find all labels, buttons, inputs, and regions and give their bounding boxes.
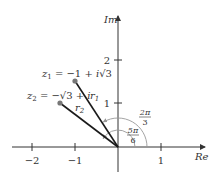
x-tick-label-neg2: −2 — [25, 155, 40, 166]
x-tick-label-neg1: −1 — [68, 155, 83, 166]
angle-label-2pi-3: 2π 3 — [139, 108, 151, 127]
svg-text:6: 6 — [130, 136, 135, 145]
svg-text:5π: 5π — [128, 126, 139, 135]
complex-plane-diagram: −2 −1 1 1 2 Re Im z1 = −1 + i√3 z2 = −√3… — [0, 0, 222, 179]
y-tick-label-1: 1 — [104, 98, 110, 109]
angle-label-5pi-6: 5π 6 — [127, 126, 139, 145]
vector-r2 — [60, 103, 118, 147]
x-tick-label-1: 1 — [158, 155, 164, 166]
re-axis-label: Re — [194, 151, 209, 162]
svg-text:3: 3 — [142, 118, 147, 127]
y-tick-label-2: 2 — [104, 55, 110, 66]
im-axis-label: Im — [103, 14, 117, 25]
point-z1 — [72, 78, 77, 83]
label-r2: r2 — [75, 102, 85, 115]
svg-text:2π: 2π — [139, 108, 151, 117]
label-z2: z2 = −√3 + i — [26, 90, 91, 103]
point-z2 — [57, 100, 62, 105]
label-r1: r1 — [90, 90, 99, 103]
